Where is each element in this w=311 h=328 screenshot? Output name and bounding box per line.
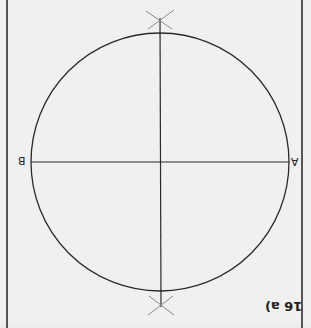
figure-label: 16 a) [265, 300, 302, 313]
perpendicular-bisector [160, 18, 161, 307]
point-label-a: A [291, 156, 299, 167]
point-label-b: B [18, 155, 26, 166]
